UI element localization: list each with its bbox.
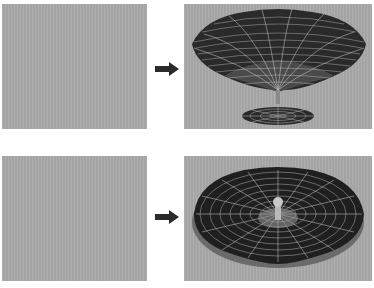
before-panel-bottom (2, 156, 147, 281)
right-arrow-icon (155, 210, 179, 224)
before-panel-top (2, 4, 147, 129)
bowl-wireframe (184, 156, 372, 281)
after-panel-bottom (184, 156, 372, 281)
after-panel-top (184, 4, 372, 129)
funnel-wireframe (184, 4, 372, 129)
right-arrow-icon (155, 62, 179, 76)
